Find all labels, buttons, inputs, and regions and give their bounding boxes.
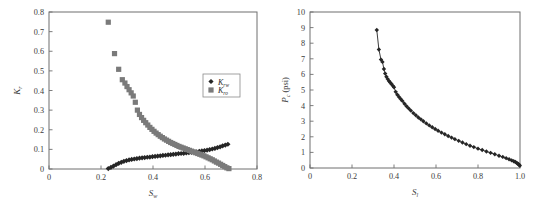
chart-panel-left: 00.20.40.60.800.10.20.30.40.50.60.70.8Sw… xyxy=(0,0,275,204)
data-point xyxy=(480,148,484,152)
y-tick-label: 4 xyxy=(301,102,305,111)
y-tick-label: 1 xyxy=(301,148,305,157)
data-point xyxy=(133,100,138,105)
data-point xyxy=(112,51,117,56)
y-tick-label: 0 xyxy=(40,165,44,174)
data-point xyxy=(476,146,480,150)
data-point xyxy=(456,139,460,143)
x-tick-label: 1.0 xyxy=(515,172,525,181)
x-tick-label: 0.6 xyxy=(200,173,210,182)
x-tick-label: 0.2 xyxy=(96,173,106,182)
y-tick-label: 0.8 xyxy=(34,8,44,17)
data-point xyxy=(493,152,497,156)
chart-panel-right: 00.20.40.60.81.0012345678910SlPc (psi) xyxy=(275,0,549,204)
figure-container: 00.20.40.60.800.10.20.30.40.50.60.70.8Sw… xyxy=(0,0,549,204)
data-point xyxy=(131,93,136,98)
y-axis-title: Kr xyxy=(12,86,23,96)
data-point xyxy=(375,28,379,32)
x-tick-label: 0.4 xyxy=(148,173,158,182)
data-point xyxy=(472,145,476,149)
x-tick-label: 0 xyxy=(308,172,312,181)
y-tick-label: 0.1 xyxy=(34,145,44,154)
x-axis-title: Sl xyxy=(412,187,419,198)
data-point xyxy=(226,166,231,171)
data-point xyxy=(460,140,464,144)
data-point xyxy=(488,151,492,155)
x-tick-label: 0.2 xyxy=(347,172,357,181)
data-point xyxy=(497,153,501,157)
y-tick-label: 7 xyxy=(301,55,305,64)
y-tick-label: 0.7 xyxy=(34,28,44,37)
legend: KrwKro xyxy=(203,74,240,97)
x-axis-title: Sw xyxy=(149,188,158,199)
data-point xyxy=(382,67,386,71)
x-tick-label: 0.8 xyxy=(473,172,483,181)
data-point xyxy=(377,47,381,51)
x-tick-label: 0.8 xyxy=(252,173,262,182)
y-tick-label: 0.6 xyxy=(34,47,44,56)
series-pc-markers xyxy=(375,28,522,168)
svg-text:Pc (psi): Pc (psi) xyxy=(280,77,291,104)
legend-marker-kro xyxy=(208,87,213,92)
y-tick-label: 6 xyxy=(301,70,305,79)
y-tick-label: 3 xyxy=(301,117,305,126)
x-tick-label: 0.6 xyxy=(431,172,441,181)
y-tick-label: 2 xyxy=(301,133,305,142)
data-point xyxy=(116,67,121,72)
x-tick-label: 0 xyxy=(47,173,51,182)
y-axis-title: Pc (psi) xyxy=(280,77,291,104)
data-point xyxy=(468,143,472,147)
plot-frame xyxy=(310,12,520,168)
y-tick-label: 8 xyxy=(301,39,305,48)
data-point xyxy=(464,142,468,146)
x-tick-label: 0.4 xyxy=(389,172,399,181)
y-tick-label: 10 xyxy=(297,8,305,17)
y-tick-label: 0.2 xyxy=(34,126,44,135)
data-point xyxy=(484,149,488,153)
y-tick-label: 0 xyxy=(301,164,305,173)
y-tick-label: 0.5 xyxy=(34,67,44,76)
left-plot-svg: 00.20.40.60.800.10.20.30.40.50.60.70.8Sw… xyxy=(0,0,275,204)
data-point xyxy=(106,20,111,25)
y-tick-label: 0.3 xyxy=(34,106,44,115)
right-plot-svg: 00.20.40.60.81.0012345678910SlPc (psi) xyxy=(275,0,549,204)
y-tick-label: 9 xyxy=(301,24,305,33)
svg-text:Kr: Kr xyxy=(12,86,23,96)
y-tick-label: 0.4 xyxy=(34,87,44,96)
y-tick-label: 5 xyxy=(301,86,305,95)
